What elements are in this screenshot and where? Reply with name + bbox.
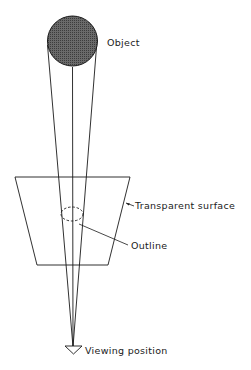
object-circle: [48, 16, 98, 66]
transparent-surface-label: Transparent surface: [134, 200, 235, 211]
sight-lines: [48, 45, 97, 347]
object-label: Object: [107, 37, 140, 48]
sight-line-right: [73, 47, 97, 347]
outline-leader-line: [79, 224, 128, 245]
viewing-position-label: Viewing position: [85, 345, 168, 356]
sight-line-left: [48, 45, 74, 347]
outline-label: Outline: [131, 240, 167, 251]
outline-ellipse: [61, 207, 83, 221]
surface-leader-arrow-icon: [126, 203, 130, 206]
perspective-diagram: Object Transparent surface Outline Viewi…: [0, 0, 251, 370]
viewing-position-triangle-icon: [65, 346, 82, 354]
